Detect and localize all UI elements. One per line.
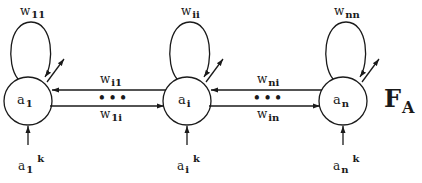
node-label-a1: a1 xyxy=(17,93,33,106)
node-a1 xyxy=(4,22,64,145)
input-label-a1k: a1k xyxy=(18,160,44,172)
self-loop-a1 xyxy=(11,22,51,79)
edge-weight-wni: wni xyxy=(257,73,279,85)
node-an xyxy=(319,22,379,145)
self-loop-ai xyxy=(170,22,210,79)
input-label-aik: aik xyxy=(177,160,200,172)
self-weight-w11: w11 xyxy=(20,5,45,17)
self-weight-wii: wii xyxy=(181,5,200,17)
edge-weight-wi1: wi1 xyxy=(100,73,122,85)
node-label-an: an xyxy=(333,93,349,106)
self-loop-an xyxy=(326,22,366,79)
node-label-ai: ai xyxy=(178,93,191,106)
self-weight-wnn: wnn xyxy=(334,5,360,17)
edge-weight-win: win xyxy=(257,108,279,120)
layer-label-fa: FA xyxy=(384,84,414,113)
input-label-ank: ank xyxy=(333,160,359,172)
ellipsis-right: ••• xyxy=(253,91,285,105)
edge-weight-w1i: w1i xyxy=(100,108,122,120)
ellipsis-left: ••• xyxy=(98,91,130,105)
node-ai xyxy=(163,22,223,145)
